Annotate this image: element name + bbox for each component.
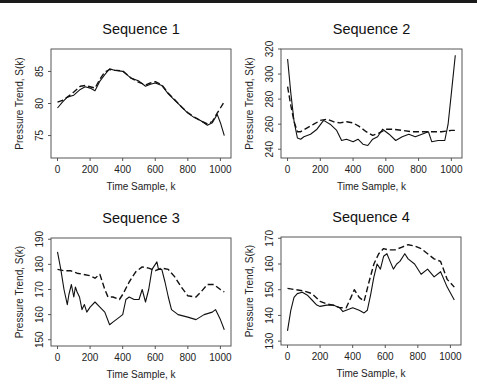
y-tick-label: 190 xyxy=(34,230,45,247)
x-tick-label: 400 xyxy=(344,351,361,362)
measured-line xyxy=(288,254,455,331)
panel-title: Sequence 2 xyxy=(333,21,410,37)
y-tick-label: 150 xyxy=(34,331,45,348)
x-tick-label: 1000 xyxy=(209,352,232,363)
x-axis: 02004006008001000Time Sample, k xyxy=(55,158,232,192)
x-tick-label: 800 xyxy=(409,351,426,362)
y-tick-label: 280 xyxy=(264,90,275,107)
x-tick-label: 0 xyxy=(285,164,291,175)
y-axis: 130140150160170Pressure Trend, S(k) xyxy=(244,230,281,350)
x-axis-label: Time Sample, k xyxy=(336,368,406,379)
x-axis: 02004006008001000Time Sample, k xyxy=(285,345,462,379)
y-axis-label: Pressure Trend, S(k) xyxy=(14,246,25,338)
y-tick-label: 80 xyxy=(34,98,45,110)
x-tick-label: 800 xyxy=(179,352,196,363)
x-tick-label: 1000 xyxy=(439,351,462,362)
x-tick-label: 0 xyxy=(285,351,291,362)
y-axis-label: Pressure Trend, S(k) xyxy=(14,57,25,149)
panel-sequence-3: Sequence 302004006008001000Time Sample, … xyxy=(14,210,232,380)
panel-sequence-2: Sequence 202004006008001000Time Sample, … xyxy=(244,21,463,192)
y-tick-label: 140 xyxy=(264,307,275,324)
plot-frame xyxy=(51,49,231,158)
y-tick-label: 160 xyxy=(34,306,45,323)
y-tick-label: 130 xyxy=(264,332,275,349)
y-tick-label: 160 xyxy=(264,255,275,272)
trend-estimate-line xyxy=(288,245,455,308)
x-axis-label: Time Sample, k xyxy=(106,181,176,192)
y-tick-label: 150 xyxy=(264,281,275,298)
y-tick-label: 170 xyxy=(264,230,275,247)
y-tick-label: 170 xyxy=(34,281,45,298)
trend-estimate-line xyxy=(58,70,225,125)
y-tick-label: 180 xyxy=(34,256,45,273)
panel-title: Sequence 3 xyxy=(102,210,179,226)
x-tick-label: 0 xyxy=(55,164,61,175)
y-tick-label: 320 xyxy=(264,40,275,57)
panel-title: Sequence 4 xyxy=(332,209,409,225)
x-tick-label: 600 xyxy=(147,164,164,175)
panel-title: Sequence 1 xyxy=(102,21,179,37)
measured-line xyxy=(288,55,456,145)
y-axis-label: Pressure Trend, S(k) xyxy=(244,245,255,337)
x-tick-label: 200 xyxy=(312,351,329,362)
measured-line xyxy=(58,252,225,330)
y-tick-label: 240 xyxy=(264,140,275,157)
x-tick-label: 200 xyxy=(82,164,99,175)
x-tick-label: 1000 xyxy=(209,164,232,175)
x-axis-label: Time Sample, k xyxy=(337,181,407,192)
y-axis: 240260280300320Pressure Trend, S(k) xyxy=(244,40,281,157)
measured-line xyxy=(58,69,225,136)
x-tick-label: 400 xyxy=(114,164,131,175)
x-tick-label: 1000 xyxy=(440,164,463,175)
x-tick-label: 600 xyxy=(147,352,164,363)
x-tick-label: 200 xyxy=(82,352,99,363)
x-tick-label: 400 xyxy=(114,352,131,363)
x-tick-label: 600 xyxy=(377,351,394,362)
trend-estimate-line xyxy=(288,87,456,136)
figure-grid: Sequence 102004006008001000Time Sample, … xyxy=(0,0,477,391)
x-axis: 02004006008001000Time Sample, k xyxy=(55,346,232,380)
y-tick-label: 75 xyxy=(34,130,45,142)
y-tick-label: 300 xyxy=(264,65,275,82)
x-tick-label: 200 xyxy=(312,164,329,175)
x-tick-label: 600 xyxy=(377,164,394,175)
y-tick-label: 85 xyxy=(34,65,45,77)
panel-sequence-1: Sequence 102004006008001000Time Sample, … xyxy=(14,21,232,192)
x-tick-label: 800 xyxy=(410,164,427,175)
x-tick-label: 0 xyxy=(55,352,61,363)
y-axis-label: Pressure Trend, S(k) xyxy=(244,57,255,149)
x-tick-label: 400 xyxy=(345,164,362,175)
y-axis: 758085Pressure Trend, S(k) xyxy=(14,57,51,149)
panel-sequence-4: Sequence 402004006008001000Time Sample, … xyxy=(244,209,462,379)
x-axis-label: Time Sample, k xyxy=(106,369,176,380)
x-tick-label: 800 xyxy=(179,164,196,175)
y-tick-label: 260 xyxy=(264,115,275,132)
x-axis: 02004006008001000Time Sample, k xyxy=(285,158,463,192)
y-axis: 150160170180190Pressure Trend, S(k) xyxy=(14,230,51,348)
